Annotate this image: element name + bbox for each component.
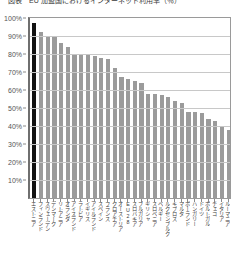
- x-axis-tick-mark: [134, 199, 135, 202]
- x-axis-tick-label: スペイン: [98, 201, 103, 258]
- x-axis-tick-label: チェコ: [212, 201, 217, 258]
- y-axis-tick-mark: [23, 72, 26, 73]
- gridline: [30, 126, 230, 127]
- bar[interactable]: [193, 112, 197, 198]
- x-axis-tick-label: EU28: [125, 201, 130, 258]
- x-axis-tick-mark: [147, 199, 148, 202]
- bar[interactable]: [186, 112, 190, 198]
- x-axis-tick-label: ハンガリー: [192, 201, 197, 258]
- x-axis-tick-mark: [214, 199, 215, 202]
- x-axis-tick-mark: [60, 199, 61, 202]
- x-axis-tick-label: スロベニア: [151, 201, 156, 258]
- bar[interactable]: [59, 43, 63, 198]
- x-axis-tick-mark: [120, 199, 121, 202]
- x-axis-tick-mark: [221, 199, 222, 202]
- plot-area: [28, 17, 231, 199]
- x-axis-tick-mark: [228, 199, 229, 202]
- y-axis-tick-label: 90%: [8, 33, 22, 40]
- y-axis-tick-label: 40%: [8, 123, 22, 130]
- x-axis-tick-mark: [100, 199, 101, 202]
- x-axis-tick-mark: [74, 199, 75, 202]
- x-axis-tick-label: ラトビア: [78, 201, 83, 258]
- y-axis-tick-mark: [23, 54, 26, 55]
- x-axis-tick-label: イタリア: [218, 201, 223, 258]
- x-axis-tick-mark: [40, 199, 41, 202]
- x-axis-tick-mark: [87, 199, 88, 202]
- x-axis-tick-label: クロアチア: [111, 201, 116, 258]
- bar[interactable]: [39, 32, 43, 198]
- bar[interactable]: [32, 23, 36, 198]
- x-axis-tick-label: ブルガリア: [138, 201, 143, 258]
- x-axis-tick-mark: [194, 199, 195, 202]
- y-axis-tick-label: 10%: [8, 177, 22, 184]
- x-axis-tick-label: ベルギー: [158, 201, 163, 258]
- y-axis-tick-mark: [23, 18, 26, 19]
- y-axis-tick-mark: [23, 180, 26, 181]
- x-axis-tick-label: ギリシャ: [145, 201, 150, 258]
- x-axis-tick-mark: [187, 199, 188, 202]
- bar[interactable]: [113, 68, 117, 198]
- x-axis-tick-label: オランダ: [64, 201, 69, 258]
- x-axis-tick-mark: [53, 199, 54, 202]
- y-axis-tick-label: 70%: [8, 69, 22, 76]
- bar[interactable]: [99, 58, 103, 198]
- y-axis-tick-mark: [23, 144, 26, 145]
- bar[interactable]: [173, 101, 177, 198]
- x-axis-tick-mark: [80, 199, 81, 202]
- y-axis-tick-mark: [23, 36, 26, 37]
- y-axis-tick-label: 20%: [8, 159, 22, 166]
- bar[interactable]: [213, 121, 217, 198]
- y-axis: 100%90%80%70%60%50%40%30%20%10%: [0, 17, 26, 199]
- x-axis-tick-label: ポルトガル: [205, 201, 210, 258]
- y-axis-tick-label: 80%: [8, 51, 22, 58]
- x-axis-tick-label: アイルランド: [91, 201, 96, 258]
- x-axis-tick-mark: [94, 199, 95, 202]
- x-axis-tick-mark: [114, 199, 115, 202]
- x-axis-tick-mark: [67, 199, 68, 202]
- x-axis-tick-label: デンマーク: [51, 201, 56, 258]
- y-axis-tick-label: 50%: [8, 105, 22, 112]
- x-axis-labels: エストニアフィンランドスウェーデンデンマークリトアニアオランダアイスランドラトビ…: [30, 201, 230, 259]
- x-axis-tick-mark: [167, 199, 168, 202]
- x-axis-tick-label: フィンランド: [37, 201, 42, 258]
- bar[interactable]: [227, 130, 231, 198]
- x-axis-tick-label: ポーランド: [185, 201, 190, 258]
- x-axis-tick-label: ルーマニア: [225, 201, 230, 258]
- x-axis-tick-label: マルタ: [178, 201, 183, 258]
- bar[interactable]: [106, 59, 110, 198]
- bar[interactable]: [146, 94, 150, 198]
- y-axis-tick-mark: [23, 126, 26, 127]
- bar[interactable]: [46, 36, 50, 198]
- bar[interactable]: [153, 94, 157, 198]
- x-axis-tick-mark: [208, 199, 209, 202]
- x-axis-tick-label: アイスランド: [71, 201, 76, 258]
- bar[interactable]: [160, 95, 164, 198]
- y-axis-tick-label: 100%: [4, 15, 22, 22]
- x-axis-tick-mark: [47, 199, 48, 202]
- y-axis-tick-mark: [23, 162, 26, 163]
- x-axis-tick-mark: [154, 199, 155, 202]
- bar[interactable]: [166, 97, 170, 198]
- y-axis-tick-label: 60%: [8, 87, 22, 94]
- y-axis-tick-mark: [23, 108, 26, 109]
- gridline: [30, 180, 230, 181]
- gridline: [30, 108, 230, 109]
- bar[interactable]: [66, 47, 70, 198]
- x-axis-tick-mark: [174, 199, 175, 202]
- bar[interactable]: [52, 36, 56, 198]
- x-axis-tick-mark: [141, 199, 142, 202]
- bar-chart: 図表 EU 加盟国におけるインターネット利用率（％） 100%90%80%70%…: [0, 0, 237, 259]
- x-axis-tick-mark: [107, 199, 108, 202]
- y-axis-tick-mark: [23, 90, 26, 91]
- bar[interactable]: [206, 119, 210, 198]
- x-axis-tick-mark: [161, 199, 162, 202]
- x-axis-tick-mark: [33, 199, 34, 202]
- x-axis-tick-label: イギリス: [84, 201, 89, 258]
- x-axis-tick-label: フランス: [104, 201, 109, 258]
- x-axis-tick-mark: [181, 199, 182, 202]
- x-axis-tick-label: スロバキア: [131, 201, 136, 258]
- x-axis-tick-label: ドイツ: [198, 201, 203, 258]
- x-axis-tick-label: ルクセンブルク: [165, 201, 170, 258]
- x-axis-tick-label: リトアニア: [58, 201, 63, 258]
- bar[interactable]: [180, 103, 184, 198]
